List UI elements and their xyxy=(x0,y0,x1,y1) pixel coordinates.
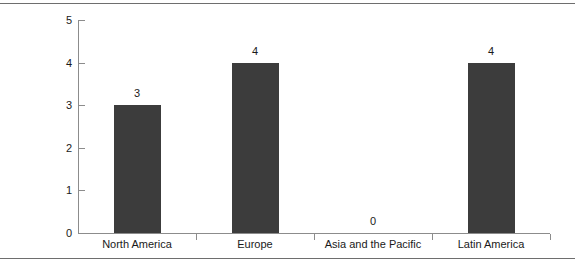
bar-value-label: 4 xyxy=(225,46,285,57)
y-axis-tick xyxy=(79,233,85,234)
y-axis-tick-label-text: 0 xyxy=(52,228,72,239)
chart-page: 012345 3North America4Europe0Asia and th… xyxy=(0,0,575,271)
x-axis-category-label: Asia and the Pacific xyxy=(314,239,432,250)
y-axis-tick-label: 0 xyxy=(52,228,72,239)
y-axis-tick xyxy=(79,63,85,64)
bar-value-label: 3 xyxy=(107,88,167,99)
y-axis-tick xyxy=(79,148,85,149)
y-axis-tick xyxy=(79,190,85,191)
x-axis-category-label: Europe xyxy=(196,239,314,250)
y-axis-line xyxy=(78,20,79,234)
bar-chart-plot: 012345 3North America4Europe0Asia and th… xyxy=(0,0,575,271)
y-axis-tick-label: 2 xyxy=(52,143,72,154)
bar-value-label: 4 xyxy=(461,46,521,57)
bar[interactable] xyxy=(232,63,279,233)
y-axis-tick-label: 5 xyxy=(52,15,72,26)
y-axis-tick-label-text: 2 xyxy=(52,143,72,154)
y-axis-tick-label: 4 xyxy=(52,58,72,69)
y-axis-tick xyxy=(79,105,85,106)
x-axis-tick xyxy=(550,234,551,240)
y-axis-tick-label-text: 3 xyxy=(52,100,72,111)
bar-value-label: 0 xyxy=(343,216,403,227)
bar[interactable] xyxy=(468,63,515,233)
y-axis-tick-label: 3 xyxy=(52,100,72,111)
x-axis-category-label: Latin America xyxy=(432,239,550,250)
bar[interactable] xyxy=(114,105,161,233)
y-axis-tick-label-text: 5 xyxy=(52,15,72,26)
y-axis-tick xyxy=(79,20,85,21)
x-axis-category-label: North America xyxy=(78,239,196,250)
y-axis-tick-label-text: 4 xyxy=(52,58,72,69)
y-axis-tick-label: 1 xyxy=(52,185,72,196)
y-axis-tick-label-text: 1 xyxy=(52,185,72,196)
